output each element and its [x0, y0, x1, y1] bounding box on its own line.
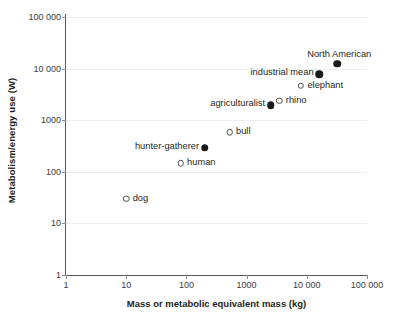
x-axis-line: [65, 275, 368, 276]
y-tick-mark: [62, 69, 66, 70]
point-label-agriculturalist: agriculturalist: [210, 100, 265, 109]
gridline-y: [66, 223, 367, 224]
data-point-dog: [123, 196, 130, 203]
y-tick-label: 100: [46, 167, 61, 177]
gridline-y: [66, 17, 367, 18]
x-tick-mark: [247, 275, 248, 279]
y-tick-label: 1000: [41, 115, 61, 125]
data-point-agriculturalist: [267, 101, 275, 109]
point-label-industrial-mean: industrial mean: [251, 69, 314, 78]
y-tick-label: 1: [56, 270, 61, 280]
point-label-human: human: [187, 159, 215, 168]
x-tick-mark: [66, 275, 67, 279]
x-tick-mark: [126, 275, 127, 279]
data-point-elephant: [298, 82, 305, 89]
y-tick-mark: [62, 17, 66, 18]
point-label-bull: bull: [236, 128, 250, 137]
plot-area: 110100100010 000100 000 110100100010 000…: [66, 17, 367, 275]
x-tick-label: 10: [121, 280, 131, 290]
gridline-y: [66, 69, 367, 70]
x-tick-label: 1: [63, 280, 68, 290]
x-tick-label: 10 000: [293, 280, 321, 290]
x-tick-label: 100 000: [351, 280, 384, 290]
point-label-north-american: North American: [307, 50, 371, 59]
x-tick-label: 1000: [237, 280, 257, 290]
data-point-industrial-mean: [315, 71, 323, 79]
data-point-bull: [226, 129, 233, 136]
y-tick-mark: [62, 120, 66, 121]
y-axis-title-text: Metabolism/energy use (W): [7, 77, 18, 203]
x-axis-title: Mass or metabolic equivalent mass (kg): [66, 298, 367, 309]
y-tick-label: 10 000: [33, 64, 61, 74]
y-tick-mark: [62, 223, 66, 224]
x-tick-mark: [307, 275, 308, 279]
data-point-north-american: [333, 60, 341, 68]
x-tick-label: 100: [179, 280, 194, 290]
metabolism-vs-mass-chart: Metabolism/energy use (W) 110100100010 0…: [0, 0, 396, 328]
x-tick-mark: [186, 275, 187, 279]
data-point-hunter-gatherer: [201, 144, 209, 152]
point-label-dog: dog: [133, 194, 149, 203]
y-tick-label: 10: [51, 218, 61, 228]
y-axis-title: Metabolism/energy use (W): [0, 0, 24, 280]
y-tick-mark: [62, 172, 66, 173]
point-label-rhino: rhino: [286, 96, 307, 105]
gridline-y: [66, 172, 367, 173]
point-label-hunter-gatherer: hunter-gatherer: [135, 142, 199, 151]
y-tick-label: 100 000: [28, 12, 61, 22]
point-label-elephant: elephant: [307, 81, 343, 90]
data-point-human: [177, 160, 184, 167]
gridline-y: [66, 120, 367, 121]
data-point-rhino: [276, 97, 283, 104]
x-tick-mark: [367, 275, 368, 279]
y-axis-line: [65, 14, 66, 276]
